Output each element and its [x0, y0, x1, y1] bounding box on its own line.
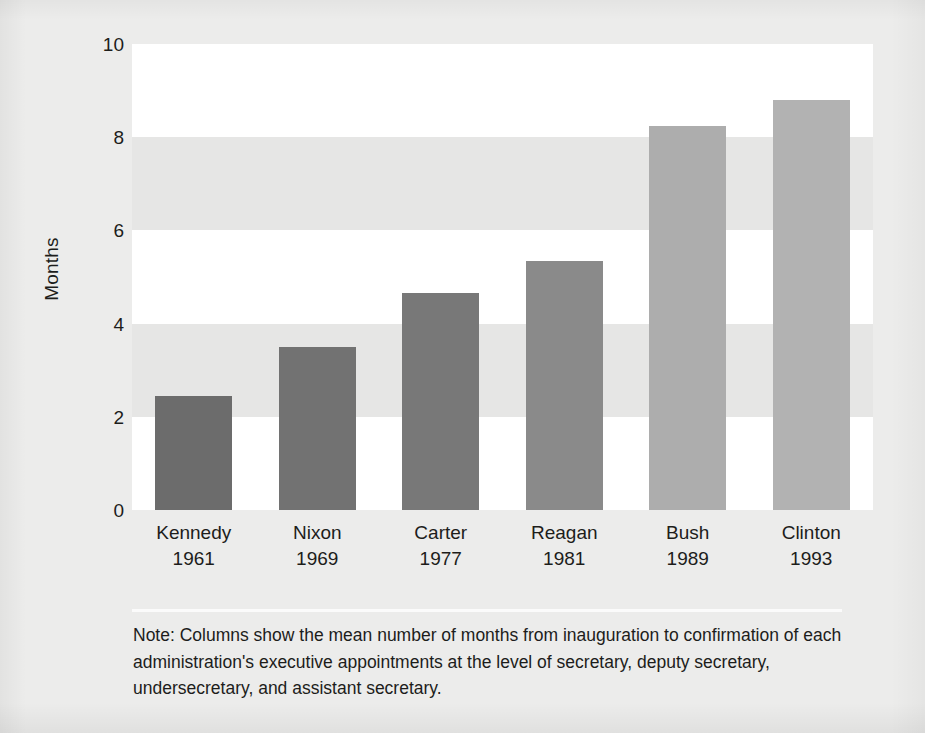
x-label-year: 1977: [379, 546, 503, 572]
bar-clinton: [773, 100, 850, 510]
y-tick-2: 2: [84, 408, 124, 427]
x-label-carter: Carter1977: [379, 520, 503, 572]
x-label-reagan: Reagan1981: [503, 520, 627, 572]
x-label-name: Carter: [379, 520, 503, 546]
bar-kennedy: [155, 396, 232, 510]
y-tick-6: 6: [84, 221, 124, 240]
x-label-year: 1981: [503, 546, 627, 572]
x-label-name: Kennedy: [132, 520, 256, 546]
gridline-band: [132, 137, 873, 230]
bar-nixon: [279, 347, 356, 510]
x-label-name: Reagan: [503, 520, 627, 546]
x-label-year: 1989: [626, 546, 750, 572]
bar-bush: [649, 126, 726, 510]
note-divider: [132, 609, 842, 612]
gridline-band: [132, 44, 873, 137]
gridline-band: [132, 324, 873, 417]
y-tick-10: 10: [84, 35, 124, 54]
x-axis-labels: Kennedy1961Nixon1969Carter1977Reagan1981…: [132, 520, 873, 590]
x-label-nixon: Nixon1969: [256, 520, 380, 572]
y-axis-title: Months: [41, 209, 63, 329]
x-label-year: 1961: [132, 546, 256, 572]
x-label-year: 1993: [750, 546, 874, 572]
y-tick-4: 4: [84, 315, 124, 334]
gridline-band: [132, 230, 873, 323]
x-label-clinton: Clinton1993: [750, 520, 874, 572]
x-label-kennedy: Kennedy1961: [132, 520, 256, 572]
y-axis-ticks: 0246810: [78, 0, 124, 733]
gridline-band: [132, 417, 873, 510]
y-tick-8: 8: [84, 128, 124, 147]
x-label-name: Nixon: [256, 520, 380, 546]
x-label-name: Clinton: [750, 520, 874, 546]
bar-reagan: [526, 261, 603, 510]
bar-chart-figure: 0246810 Months Kennedy1961Nixon1969Carte…: [0, 0, 925, 733]
x-label-year: 1969: [256, 546, 380, 572]
plot-area: [132, 44, 873, 510]
bar-carter: [402, 293, 479, 510]
chart-note: Note: Columns show the mean number of mo…: [133, 622, 853, 702]
x-label-bush: Bush1989: [626, 520, 750, 572]
y-tick-0: 0: [84, 501, 124, 520]
x-label-name: Bush: [626, 520, 750, 546]
